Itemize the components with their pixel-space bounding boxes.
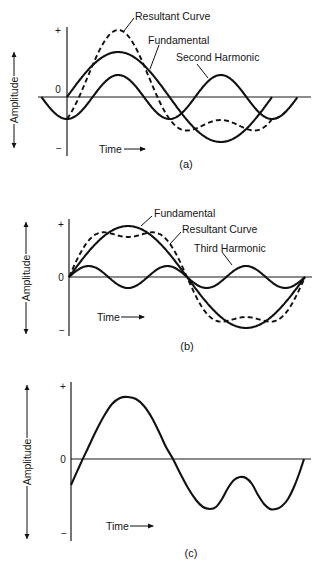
amplitude-axis-label: Amplitude	[8, 52, 20, 148]
y-axis-label: Amplitude	[8, 77, 20, 124]
x-axis-label: Time	[106, 520, 129, 532]
resultant-leader	[124, 18, 134, 31]
arrowhead-down-icon	[24, 329, 29, 334]
x-axis-label: Time	[97, 311, 120, 323]
arrowhead-up-icon	[25, 385, 30, 390]
panel-caption: (c)	[185, 547, 198, 559]
complex-waveform-curve	[71, 397, 304, 510]
arrowhead-down-icon	[25, 534, 30, 539]
label-resultant-curve: Resultant Curve	[182, 223, 257, 235]
tick-minus: −	[59, 325, 65, 336]
arrowhead-up-icon	[12, 52, 17, 57]
panel-caption: (b)	[180, 340, 193, 352]
label-fundamental: Fundamental	[148, 34, 209, 46]
tick-zero: 0	[60, 454, 66, 465]
tick-plus: +	[60, 381, 66, 392]
panel-b: Amplitude + 0 − Fundamental Resultant Cu…	[20, 207, 312, 352]
tick-zero: 0	[58, 272, 64, 283]
tick-zero: 0	[55, 84, 61, 95]
label-fundamental: Fundamental	[154, 207, 215, 219]
y-axis-label: Amplitude	[20, 255, 32, 302]
tick-plus: +	[55, 25, 61, 36]
label-resultant-curve: Resultant Curve	[135, 10, 210, 22]
arrowhead-down-icon	[12, 143, 17, 148]
x-axis-label: Time	[99, 143, 122, 155]
y-axis-label: Amplitude	[21, 439, 33, 486]
tick-minus: −	[56, 143, 62, 154]
resultant-leader	[170, 232, 181, 244]
panel-c: Amplitude + 0 − Time (c)	[21, 381, 311, 559]
amplitude-axis-label: Amplitude	[20, 222, 32, 334]
fundamental-leader	[141, 216, 152, 226]
harmonics-figure: Amplitude + 0 − Resultant Curve Fundamen…	[0, 0, 324, 580]
panel-caption: (a)	[179, 158, 192, 170]
label-second-harmonic: Second Harmonic	[176, 51, 259, 63]
tick-minus: −	[61, 528, 67, 539]
tick-plus: +	[58, 219, 64, 230]
amplitude-axis-label: Amplitude	[21, 385, 33, 539]
arrowhead-up-icon	[24, 222, 29, 227]
label-third-harmonic: Third Harmonic	[194, 242, 266, 254]
second-harmonic-leader	[197, 64, 208, 78]
fundamental-leader	[150, 45, 159, 69]
panel-a: Amplitude + 0 − Resultant Curve Fundamen…	[8, 10, 311, 170]
